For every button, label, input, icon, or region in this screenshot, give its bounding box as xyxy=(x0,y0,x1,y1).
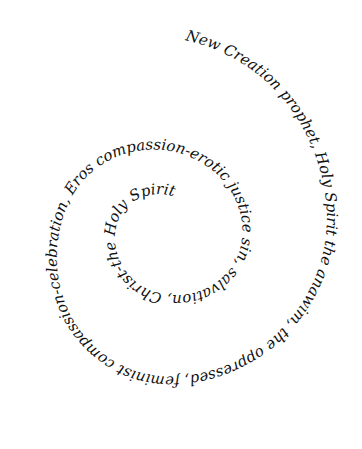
spiral-graphic: New Creation prophet, Holy Spirit the an… xyxy=(0,0,362,449)
spiral-text-path: New Creation prophet, Holy Spirit the an… xyxy=(43,26,341,390)
spiral-canvas: New Creation prophet, Holy Spirit the an… xyxy=(0,0,362,449)
spiral-text: New Creation prophet, Holy Spirit the an… xyxy=(43,26,341,390)
